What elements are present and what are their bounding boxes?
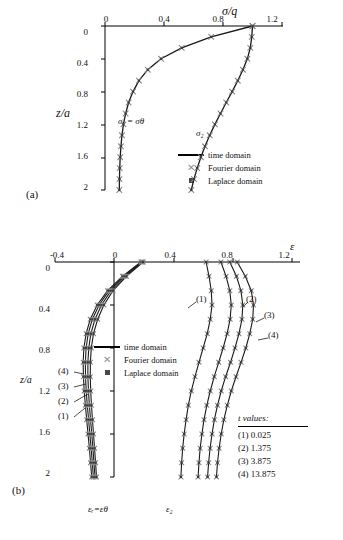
curve-eps-r-t-0-025 xyxy=(83,262,141,477)
data-marker xyxy=(212,122,218,128)
data-marker xyxy=(202,143,208,149)
chart-panel-a: (a) σ/q z/a 0 0.4 0.8 1.2 0 0.4 0.8 1.2 … xyxy=(0,0,343,232)
panel-b-leader-lines xyxy=(74,302,268,417)
curve-sigma-z xyxy=(191,26,252,190)
curve-eps-z-t-3-875 xyxy=(208,262,243,477)
curve-eps-r-t-13-875 xyxy=(90,262,143,477)
panel-b-axes xyxy=(55,258,300,477)
data-marker xyxy=(240,67,246,73)
data-marker xyxy=(179,45,185,51)
panel-a-plot xyxy=(0,0,343,232)
panel-a-curves xyxy=(119,26,252,190)
data-marker xyxy=(218,111,224,117)
data-marker xyxy=(158,56,164,62)
curve-eps-z-t-0-025 xyxy=(181,262,212,477)
data-marker xyxy=(243,274,248,279)
curve-eps-z-t-1-375 xyxy=(198,262,231,477)
panel-a-markers xyxy=(117,23,256,193)
data-marker xyxy=(229,89,235,95)
chart-panel-b: (b) ε z/a -0.4 0 0.4 0.8 1.2 0 0.4 0.8 1… xyxy=(0,232,343,540)
data-marker xyxy=(130,89,136,95)
panel-b-curves xyxy=(83,262,253,477)
data-marker xyxy=(235,78,241,84)
data-marker xyxy=(207,133,213,139)
curve-sigma-r-sigma-theta xyxy=(119,26,252,190)
curve-eps-r-t-3-875 xyxy=(88,262,143,477)
panel-b-plot xyxy=(0,232,343,540)
data-marker xyxy=(223,100,229,106)
data-marker xyxy=(136,78,142,84)
curve-eps-z-t-13-875 xyxy=(216,262,253,477)
data-marker xyxy=(145,67,151,73)
